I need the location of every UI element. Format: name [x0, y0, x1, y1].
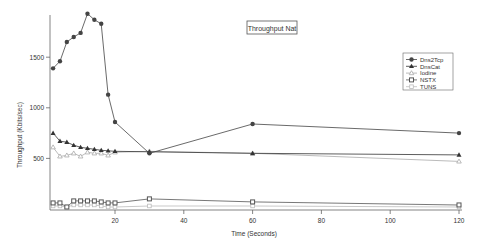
chart-title-box: Throughput Nat	[247, 21, 297, 34]
x-axis-label: Time (Seconds)	[231, 230, 277, 238]
circle-marker-icon	[85, 11, 89, 15]
x-tick-label: 20	[111, 217, 119, 224]
y-tick-label: 1000	[30, 104, 45, 111]
circle-marker-icon	[457, 131, 461, 135]
circle-marker-icon	[51, 66, 55, 70]
y-axis-label: Throughput (Kbits/sec)	[16, 102, 24, 168]
square-marker-icon	[410, 78, 414, 82]
open-triangle-marker-icon	[85, 150, 90, 154]
open-triangle-marker-icon	[457, 159, 462, 163]
circle-marker-icon	[250, 122, 254, 126]
series-layer	[51, 11, 462, 208]
square-marker-icon	[85, 199, 89, 203]
x-tick-label: 100	[385, 217, 396, 224]
square-marker-icon	[147, 197, 151, 201]
square-marker-icon	[51, 201, 55, 205]
x-ticks: 20406080100120	[111, 210, 464, 224]
circle-marker-icon	[99, 22, 103, 26]
open-square-marker-icon	[106, 205, 110, 209]
square-marker-icon	[99, 200, 103, 204]
triangle-marker-icon	[51, 131, 56, 135]
open-square-marker-icon	[99, 204, 103, 208]
legend-label: NSTX	[420, 77, 436, 83]
circle-marker-icon	[106, 92, 110, 96]
square-marker-icon	[251, 200, 255, 204]
series-iodine	[51, 145, 462, 163]
square-marker-icon	[457, 203, 461, 207]
square-marker-icon	[79, 199, 83, 203]
circle-marker-icon	[58, 59, 62, 63]
y-ticks: 50010001500	[30, 54, 50, 162]
open-square-marker-icon	[113, 205, 117, 209]
legend-label: DnsCat	[420, 64, 440, 70]
open-square-marker-icon	[79, 203, 83, 207]
circle-marker-icon	[72, 35, 76, 39]
y-tick-label: 500	[33, 155, 44, 162]
open-square-marker-icon	[72, 203, 76, 207]
open-square-marker-icon	[93, 203, 97, 207]
y-tick-label: 1500	[30, 54, 45, 61]
circle-marker-icon	[92, 18, 96, 22]
open-triangle-marker-icon	[51, 145, 56, 149]
legend-label: Iodine	[420, 70, 437, 76]
x-tick-label: 40	[180, 217, 188, 224]
open-triangle-marker-icon	[106, 153, 111, 157]
square-marker-icon	[106, 201, 110, 205]
x-tick-label: 60	[249, 217, 257, 224]
legend-item-nstx: NSTX	[406, 77, 436, 83]
circle-marker-icon	[65, 40, 69, 44]
open-square-marker-icon	[251, 204, 255, 208]
square-marker-icon	[65, 205, 69, 209]
triangle-marker-icon	[457, 152, 462, 156]
square-marker-icon	[58, 201, 62, 205]
open-triangle-marker-icon	[92, 151, 97, 155]
series-dnscat	[51, 131, 462, 157]
open-triangle-marker-icon	[71, 151, 76, 155]
open-triangle-marker-icon	[78, 154, 83, 158]
circle-marker-icon	[147, 151, 151, 155]
x-tick-label: 120	[454, 217, 465, 224]
series-line	[53, 14, 459, 154]
open-square-marker-icon	[148, 204, 152, 208]
throughput-chart: Throughput Nat 50010001500 2040608010012…	[0, 0, 481, 244]
chart-title: Throughput Nat	[248, 25, 297, 33]
square-marker-icon	[113, 201, 117, 205]
open-square-marker-icon	[410, 85, 414, 89]
open-triangle-marker-icon	[65, 153, 70, 157]
legend: Dns2TcpDnsCatIodineNSTXTUNS	[403, 53, 453, 90]
x-tick-label: 80	[318, 217, 326, 224]
legend-label: Dns2Tcp	[420, 57, 444, 63]
open-square-marker-icon	[86, 203, 90, 207]
circle-marker-icon	[113, 120, 117, 124]
circle-marker-icon	[409, 57, 413, 61]
circle-marker-icon	[78, 31, 82, 35]
square-marker-icon	[92, 199, 96, 203]
square-marker-icon	[72, 199, 76, 203]
legend-label: TUNS	[420, 84, 436, 90]
